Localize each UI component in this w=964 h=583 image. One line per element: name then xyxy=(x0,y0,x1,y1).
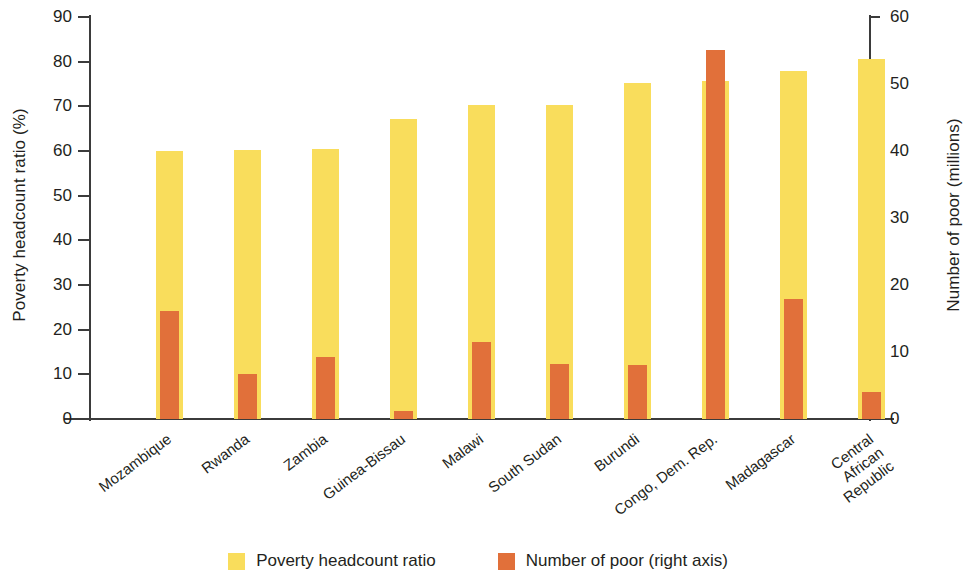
left-axis-tick xyxy=(78,239,89,241)
left-axis-tick-label: 70 xyxy=(16,96,72,116)
right-axis-tick-label: 30 xyxy=(890,208,946,228)
right-axis-tick-label: 50 xyxy=(890,74,946,94)
left-axis-tick xyxy=(78,195,89,197)
bar-group xyxy=(702,17,729,419)
left-axis-tick-label: 90 xyxy=(16,7,72,27)
left-axis-tick-label: 60 xyxy=(16,141,72,161)
right-axis-tick-label: 10 xyxy=(890,342,946,362)
bar-group xyxy=(468,17,495,419)
x-axis-label-guinea-bissau: Guinea-Bissau xyxy=(319,430,408,503)
x-axis-label-south-sudan: South Sudan xyxy=(485,430,565,496)
left-axis-tick-label: 50 xyxy=(16,186,72,206)
left-axis-tick-label: 20 xyxy=(16,320,72,340)
bar-group xyxy=(546,17,573,419)
bar-poverty-headcount-ratio xyxy=(858,59,885,419)
bar-number-of-poor xyxy=(550,364,569,419)
x-axis-label-central-african-republic: Central AfricanRepublic xyxy=(794,430,897,525)
bar-number-of-poor xyxy=(160,311,179,419)
legend-item: Number of poor (right axis) xyxy=(498,551,728,571)
legend-label: Poverty headcount ratio xyxy=(256,551,436,571)
left-axis-tick xyxy=(78,16,89,18)
right-axis-tick-label: 60 xyxy=(890,7,946,27)
left-axis-tick xyxy=(78,329,89,331)
bar-group xyxy=(234,17,261,419)
bar-number-of-poor xyxy=(628,365,647,419)
bar-number-of-poor xyxy=(472,342,491,419)
left-axis-tick-label: 30 xyxy=(16,275,72,295)
bar-group xyxy=(312,17,339,419)
left-axis-tick xyxy=(78,284,89,286)
x-axis-label-mozambique: Mozambique xyxy=(95,430,174,495)
bar-number-of-poor xyxy=(316,357,335,419)
left-axis-tick-label: 10 xyxy=(16,364,72,384)
right-axis-title: Number of poor (millions) xyxy=(944,55,964,375)
bar-poverty-headcount-ratio xyxy=(390,119,417,419)
left-axis-tick xyxy=(78,418,89,420)
x-axis-label-rwanda: Rwanda xyxy=(198,430,252,477)
bar-number-of-poor xyxy=(706,50,725,419)
right-axis-tick-label: 0 xyxy=(890,409,946,429)
left-axis-tick xyxy=(78,373,89,375)
bar-number-of-poor xyxy=(394,411,413,419)
legend-label: Number of poor (right axis) xyxy=(526,551,728,571)
chart-legend: Poverty headcount ratioNumber of poor (r… xyxy=(0,551,956,571)
x-axis-label-burundi: Burundi xyxy=(591,430,643,475)
left-axis-tick-label: 0 xyxy=(16,409,72,429)
bar-group xyxy=(858,17,885,419)
legend-swatch-icon xyxy=(228,553,245,570)
bar-number-of-poor xyxy=(238,374,257,419)
bar-group xyxy=(624,17,651,419)
plot-area xyxy=(90,17,870,419)
left-axis-tick xyxy=(78,150,89,152)
legend-item: Poverty headcount ratio xyxy=(228,551,436,571)
left-axis-tick-label: 80 xyxy=(16,52,72,72)
x-axis-label-madagascar: Madagascar xyxy=(722,430,798,493)
left-axis-tick xyxy=(78,61,89,63)
bar-group xyxy=(156,17,183,419)
right-axis-tick-label: 40 xyxy=(890,141,946,161)
x-axis-label-zambia: Zambia xyxy=(280,430,330,474)
x-axis-label-malawi: Malawi xyxy=(439,430,487,472)
right-axis-tick-label: 20 xyxy=(890,275,946,295)
bar-group xyxy=(780,17,807,419)
bar-number-of-poor xyxy=(784,299,803,419)
left-axis-tick xyxy=(78,105,89,107)
bar-number-of-poor xyxy=(862,392,881,419)
bar-group xyxy=(390,17,417,419)
left-axis-tick-label: 40 xyxy=(16,230,72,250)
legend-swatch-icon xyxy=(498,553,515,570)
